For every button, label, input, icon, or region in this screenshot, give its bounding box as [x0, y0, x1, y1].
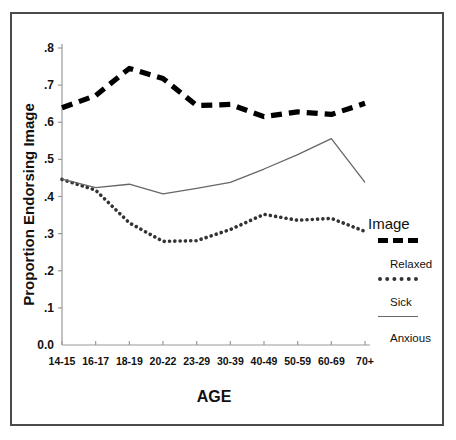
chart-legend: Image RelaxedSickAnxious	[368, 216, 454, 347]
chart-plot-area: Proportion Endorsing Image AGE 0.0.1.2.3…	[0, 0, 456, 440]
legend-label: Relaxed	[390, 257, 454, 271]
data-series-group	[62, 68, 365, 241]
series-line-sick	[62, 179, 365, 241]
series-line-anxious	[62, 139, 365, 194]
legend-entry-sick[interactable]: Sick	[368, 277, 454, 309]
legend-entry-anxious[interactable]: Anxious	[368, 316, 454, 345]
thick-dashed-line-icon	[378, 238, 418, 257]
legend-entry-relaxed[interactable]: Relaxed	[368, 238, 454, 271]
legend-label: Anxious	[390, 331, 454, 345]
thin-solid-line-icon	[378, 316, 418, 331]
dotted-line-icon	[378, 277, 418, 295]
legend-label: Sick	[390, 295, 454, 309]
legend-entries: RelaxedSickAnxious	[368, 238, 454, 345]
legend-title: Image	[368, 216, 454, 232]
series-line-relaxed	[62, 68, 365, 116]
